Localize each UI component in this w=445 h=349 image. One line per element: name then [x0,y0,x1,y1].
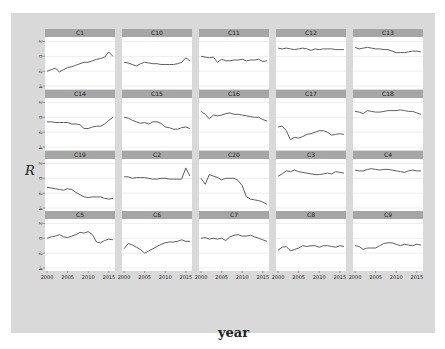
y-tick-label: -2 [38,251,43,256]
facet-panel-c5: C520-2-42000200520102015 [38,211,115,280]
panel-area [276,159,346,211]
panel-area [199,37,269,89]
x-tick-label: 2005 [138,274,151,280]
y-tick-label: -4 [38,145,43,150]
facet-panel-c19: C1920-2-4 [38,151,115,211]
facet-panel-c14: C1420-2-4 [38,90,115,150]
facet-panel-c13: C13 [353,29,423,89]
x-tick-label: 2015 [256,274,269,280]
facet-strip-label: C3 [307,151,315,158]
facet-strip-label: C7 [230,211,238,218]
facet-panel-c9: C92000200520102015 [349,211,423,280]
panel-area [45,159,115,211]
facet-panel-c17: C17 [276,90,346,150]
x-tick-label: 2005 [215,274,228,280]
panel-area [122,159,192,211]
x-axis-label: year [218,325,249,340]
y-tick-label: -2 [38,69,43,74]
x-tick-label: 2015 [333,274,346,280]
facet-strip-label: C4 [384,151,392,158]
y-tick-label: 0 [38,177,43,180]
y-tick-label: 0 [38,116,43,119]
panel-area [45,219,115,271]
facet-panel-c6: C62000200520102015 [118,211,192,280]
facet-panel-c7: C72000200520102015 [195,211,269,280]
facet-strip-label: C1 [76,29,84,36]
panel-area [122,37,192,89]
panel-area [276,37,346,89]
y-tick-label: 2 [38,101,43,104]
facet-strip-label: C18 [382,90,394,97]
facet-strip-label: C13 [382,29,394,36]
figure-background: C120-2-4C10C11C12C13C1420-2-4C15C16C17C1… [11,13,435,333]
x-tick-label: 2010 [313,274,326,280]
x-tick-label: 2015 [102,274,115,280]
y-tick-label: 2 [38,40,43,43]
panel-area [353,37,423,89]
facet-strip-label: C6 [153,211,161,218]
facet-strip-label: C11 [228,29,240,36]
y-tick-label: -2 [38,130,43,135]
facet-panel-c8: C82000200520102015 [272,211,346,280]
facet-panel-c11: C11 [199,29,269,89]
y-tick-label: -2 [38,191,43,196]
facet-strip-label: C19 [74,151,86,158]
x-tick-label: 2015 [179,274,192,280]
facet-strip-label: C10 [151,29,163,36]
y-tick-label: -4 [38,206,43,211]
facet-strip-label: C9 [384,211,392,218]
x-tick-label: 2010 [390,274,403,280]
facet-strip-label: C15 [151,90,163,97]
facet-strip-label: C16 [228,90,240,97]
y-tick-label: 0 [38,237,43,240]
y-tick-label: 2 [38,222,43,225]
facet-panel-c20: C20 [199,151,269,211]
facet-panel-c4: C4 [353,151,423,211]
x-tick-label: 2000 [41,274,54,280]
facet-panel-c1: C120-2-4 [38,29,115,89]
x-tick-label: 2000 [195,274,208,280]
facet-strip-label: C8 [307,211,315,218]
x-tick-label: 2010 [82,274,95,280]
panel-area [199,219,269,271]
y-tick-label: -4 [38,84,43,89]
facet-strip-label: C17 [305,90,317,97]
x-tick-label: 2010 [236,274,249,280]
x-tick-label: 2000 [349,274,362,280]
y-tick-label: 0 [38,55,43,58]
y-tick-label: -4 [38,266,43,271]
panel-area [276,219,346,271]
y-axis-label: R [25,163,35,178]
facet-strip-label: C2 [153,151,161,158]
facet-grid: C120-2-4C10C11C12C13C1420-2-4C15C16C17C1… [11,13,435,333]
facet-panel-c15: C15 [122,90,192,150]
facet-strip-label: C20 [228,151,240,158]
x-tick-label: 2005 [292,274,305,280]
y-tick-label: 2 [38,162,43,165]
panel-area [353,159,423,211]
panel-area [122,98,192,150]
facet-panel-c16: C16 [199,90,269,150]
panel-area [199,98,269,150]
x-tick-label: 2005 [369,274,382,280]
x-tick-label: 2015 [410,274,423,280]
facet-panel-c12: C12 [276,29,346,89]
facet-panel-c18: C18 [353,90,423,150]
facet-strip-label: C5 [76,211,84,218]
panel-area [45,37,115,89]
panel-area [199,159,269,211]
x-tick-label: 2010 [159,274,172,280]
facet-panel-c10: C10 [122,29,192,89]
facet-strip-label: C14 [74,90,86,97]
facet-strip-label: C12 [305,29,317,36]
x-tick-label: 2005 [61,274,74,280]
panel-area [353,219,423,271]
x-tick-label: 2000 [118,274,131,280]
facet-panel-c2: C2 [122,151,192,211]
x-tick-label: 2000 [272,274,285,280]
facet-panel-c3: C3 [276,151,346,211]
panel-area [276,98,346,150]
panel-area [353,98,423,150]
